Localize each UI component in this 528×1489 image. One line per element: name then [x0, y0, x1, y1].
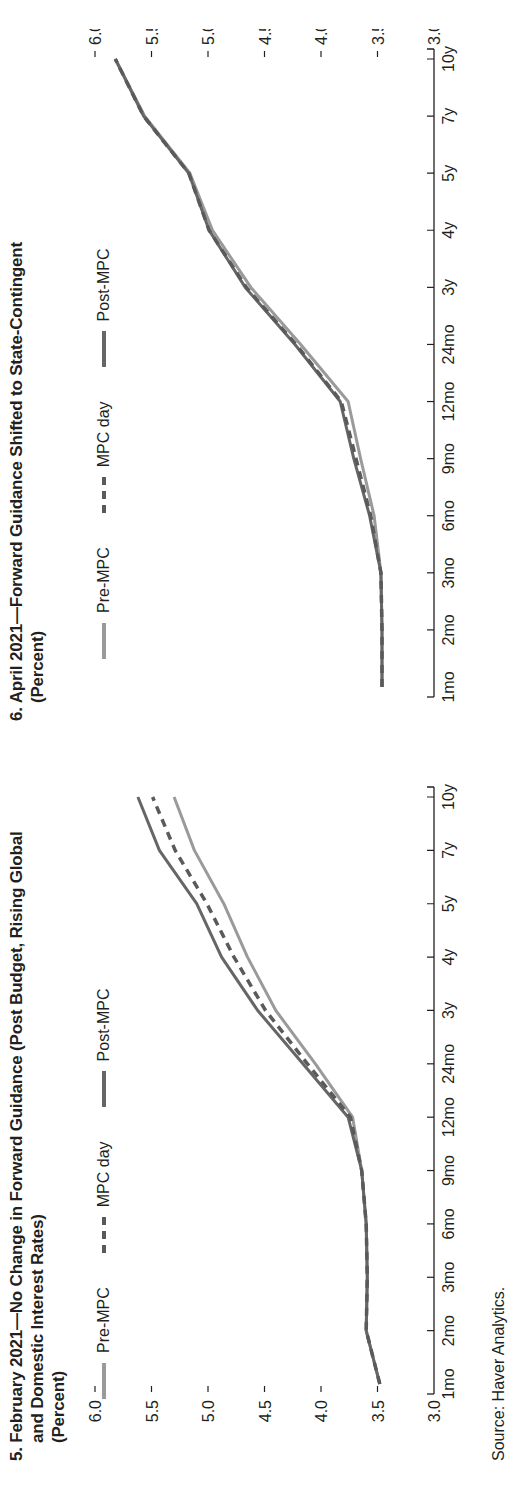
- x-tick-label: 3mo: [440, 557, 457, 588]
- x-tick-label: 9mo: [440, 1155, 457, 1186]
- x-tick-label: 24mo: [440, 1044, 457, 1084]
- line-chart-plot: 1mo2mo3mo6mo9mo12mo24mo3y4y5y7y10y3.03.5…: [0, 769, 528, 1489]
- x-tick-label: 4y: [440, 949, 457, 966]
- x-tick-label: 24mo: [440, 324, 457, 364]
- y-tick-label: 3.0: [426, 1400, 443, 1422]
- chart-panel-5: 5. February 2021—No Change in Forward Gu…: [0, 769, 528, 1489]
- series-pre-mpc: [115, 59, 382, 687]
- x-tick-label: 3y: [440, 279, 457, 296]
- chart-panel-6: 6. April 2021—Forward Guidance Shifted t…: [0, 29, 528, 749]
- y-tick-label: 5.0: [200, 1400, 217, 1422]
- y-tick-label: 4.0: [313, 1400, 330, 1422]
- y-tick-label: 6.0: [87, 29, 104, 45]
- x-tick-label: 4y: [440, 222, 457, 239]
- x-tick-label: 6mo: [440, 500, 457, 531]
- y-tick-label: 3.5: [370, 29, 387, 45]
- source-note: Source: Haver Analytics.: [490, 1287, 508, 1461]
- x-tick-label: 12mo: [440, 1097, 457, 1137]
- y-tick-label: 6.0: [87, 1400, 104, 1422]
- x-tick-label: 7y: [440, 108, 457, 125]
- x-tick-label: 2mo: [440, 614, 457, 645]
- x-tick-label: 5y: [440, 165, 457, 182]
- y-tick-label: 3.0: [426, 29, 443, 45]
- x-tick-label: 3y: [440, 1002, 457, 1019]
- x-tick-label: 10y: [440, 46, 457, 72]
- series-pre-mpc: [174, 797, 380, 1384]
- series-mpc-day: [153, 797, 380, 1384]
- series-post-mpc: [138, 797, 380, 1384]
- y-tick-label: 4.5: [257, 29, 274, 45]
- y-tick-label: 5.5: [144, 29, 161, 45]
- y-tick-label: 5.0: [200, 29, 217, 45]
- y-tick-label: 3.5: [370, 1400, 387, 1422]
- x-tick-label: 2mo: [440, 1315, 457, 1346]
- x-tick-label: 7y: [440, 842, 457, 859]
- x-tick-label: 3mo: [440, 1262, 457, 1293]
- series-mpc-day: [115, 59, 382, 687]
- y-tick-label: 4.0: [313, 29, 330, 45]
- y-tick-label: 5.5: [144, 1400, 161, 1422]
- y-tick-label: 4.5: [257, 1400, 274, 1422]
- x-tick-label: 12mo: [440, 381, 457, 421]
- x-tick-label: 10y: [440, 784, 457, 810]
- series-post-mpc: [115, 59, 382, 687]
- x-tick-label: 1mo: [440, 1368, 457, 1399]
- rotated-page: 5. February 2021—No Change in Forward Gu…: [0, 0, 528, 1489]
- x-tick-label: 9mo: [440, 443, 457, 474]
- x-tick-label: 1mo: [440, 671, 457, 702]
- x-tick-label: 6mo: [440, 1208, 457, 1239]
- x-tick-label: 5y: [440, 895, 457, 912]
- line-chart-plot: 1mo2mo3mo6mo9mo12mo24mo3y4y5y7y10y3.03.5…: [0, 29, 528, 749]
